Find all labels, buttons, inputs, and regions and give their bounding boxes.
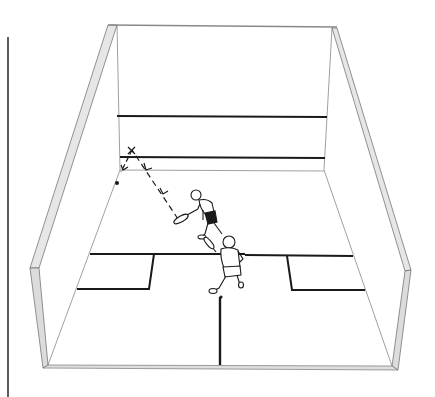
court-floor — [43, 254, 398, 370]
left-side-wall — [30, 25, 120, 368]
dashed-ball-trajectory — [121, 150, 178, 219]
squash-court-illustration — [0, 0, 435, 397]
illustration-canvas — [0, 0, 435, 397]
left-service-box — [77, 254, 154, 289]
ball-dot — [115, 181, 119, 185]
player-striking — [173, 190, 222, 239]
right-service-box — [287, 256, 365, 290]
x-mark-on-front-wall — [128, 147, 135, 154]
front-wall-out-line — [117, 116, 327, 117]
player-waiting — [203, 236, 244, 298]
front-wall — [108, 25, 337, 171]
front-wall-service-line — [120, 157, 325, 158]
right-side-wall — [324, 28, 411, 370]
